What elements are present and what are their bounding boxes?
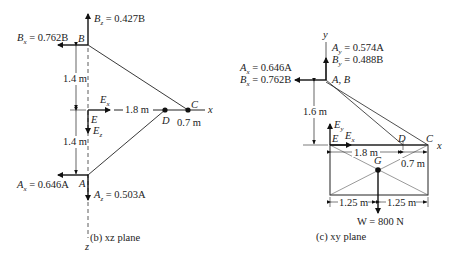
force-Bx-label: Bx = 0.762B bbox=[17, 32, 68, 46]
point-AB-label: A, B bbox=[331, 74, 351, 85]
dim-half1-label: 1.25 m bbox=[339, 197, 368, 208]
point-C-label-right: C bbox=[426, 133, 434, 144]
force-By-label: By = 0.488B bbox=[332, 54, 383, 68]
point-E-label: E bbox=[90, 114, 98, 125]
point-D bbox=[162, 107, 167, 112]
dim-BE-label: 1.4 m bbox=[63, 73, 87, 84]
point-G-label: G bbox=[374, 155, 382, 166]
force-Ez-label: Ez bbox=[92, 125, 102, 139]
force-Az-label: Az = 0.503A bbox=[93, 189, 146, 203]
caption-xy-plane: (c) xy plane bbox=[316, 231, 366, 243]
x-axis-label-right: x bbox=[436, 140, 442, 151]
point-A-label: A bbox=[78, 178, 86, 189]
dim-ED-label: 1.8 m bbox=[125, 104, 149, 115]
force-Ax-label: Ax = 0.646A bbox=[16, 179, 69, 193]
y-axis-label: y bbox=[322, 29, 328, 40]
dim-EA-label: 1.4 m bbox=[63, 136, 87, 147]
xz-plane-diagram: z x D C 0.7 m Bz = 0.427B Bx = 0.762B B … bbox=[16, 13, 213, 252]
point-C bbox=[185, 107, 190, 112]
caption-xz-plane: (b) xz plane bbox=[90, 232, 140, 244]
weight-label: W = 800 N bbox=[357, 216, 404, 227]
x-axis-label: x bbox=[207, 104, 213, 115]
dim-height-label: 1.6 m bbox=[303, 106, 327, 117]
force-Bx-label-right: Bx = 0.762B bbox=[240, 74, 291, 88]
force-Ex-label: Ex bbox=[99, 94, 110, 108]
point-E-label-right: E bbox=[331, 133, 339, 144]
point-D-label: D bbox=[161, 115, 170, 126]
z-axis-label: z bbox=[84, 241, 89, 252]
member-AB-C bbox=[326, 82, 428, 145]
xy-plane-diagram: y Ay = 0.574A By = 0.488B Ax = 0.646A Bx… bbox=[239, 29, 442, 243]
dim-DC-label-right: 0.7 m bbox=[401, 158, 425, 169]
point-D-label-right: D bbox=[397, 133, 406, 144]
dim-DC-label: 0.7 m bbox=[177, 117, 201, 128]
dim-half2-label: 1.25 m bbox=[387, 197, 416, 208]
free-body-diagrams: z x D C 0.7 m Bz = 0.427B Bx = 0.762B B … bbox=[0, 0, 459, 257]
point-C-label: C bbox=[191, 99, 199, 110]
member-AD bbox=[88, 110, 165, 175]
point-B-label: B bbox=[78, 33, 85, 44]
force-Bz-label: Bz = 0.427B bbox=[94, 13, 145, 27]
force-Ex-label-right: Ex bbox=[344, 130, 355, 144]
force-Ey-label: Ey bbox=[333, 119, 344, 133]
